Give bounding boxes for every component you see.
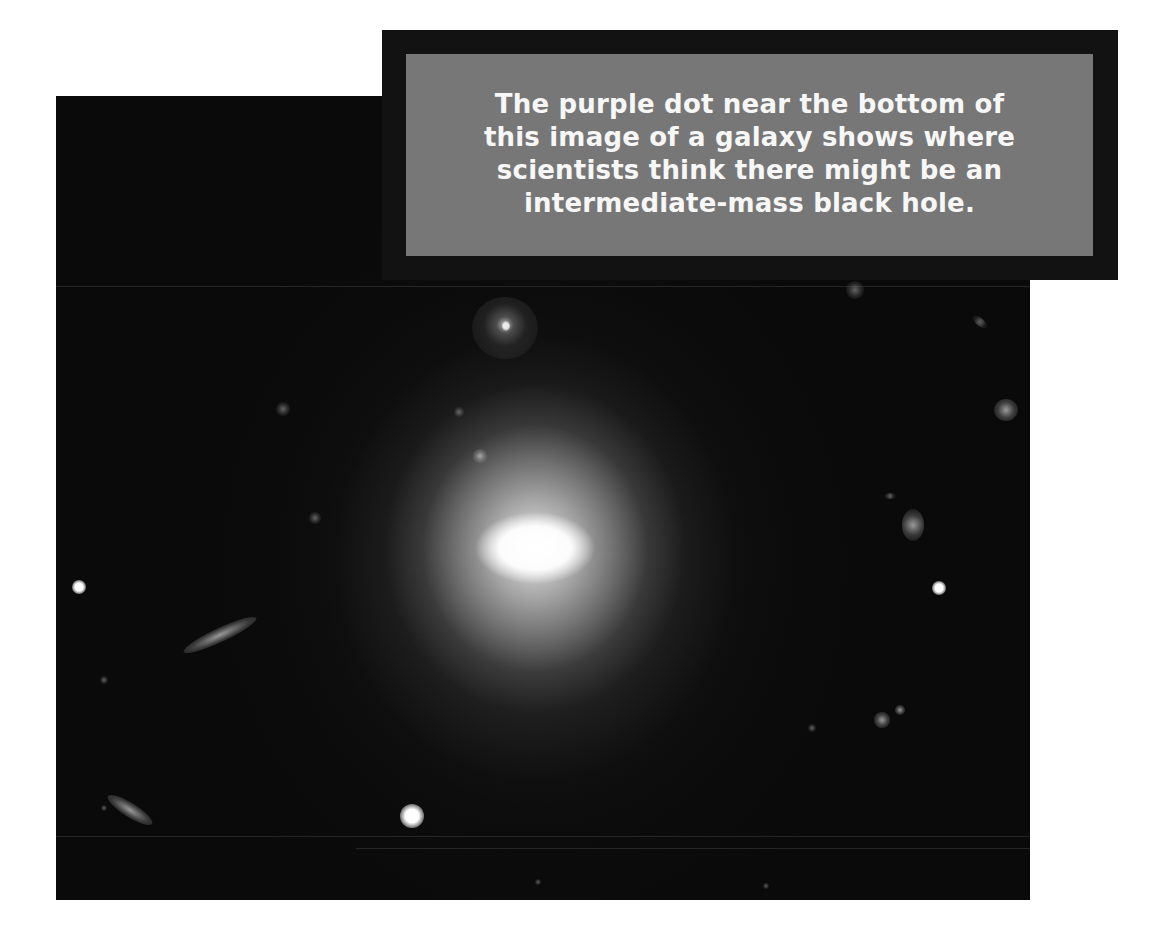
scan-artifact (356, 848, 1030, 849)
spiral-galaxy-core (502, 321, 510, 331)
caption-text: The purple dot near the bottom of this i… (430, 88, 1070, 220)
bright-star-right (932, 581, 946, 595)
caption-line: this image of a galaxy shows where (430, 121, 1070, 154)
caption-line: scientists think there might be an (430, 154, 1070, 187)
edge-on-galaxy-bottom-left (104, 790, 156, 829)
faint-object (535, 879, 541, 885)
edge-on-galaxy-left (181, 612, 259, 658)
faint-object (309, 512, 321, 524)
bright-star-left (72, 580, 86, 594)
elliptical-galaxy-right (902, 509, 924, 541)
faint-object (846, 281, 864, 299)
faint-object (454, 407, 464, 417)
caption-line: The purple dot near the bottom of (430, 88, 1070, 121)
scan-artifact (56, 836, 1030, 837)
caption-box: The purple dot near the bottom of this i… (406, 54, 1093, 256)
galaxy-pair-a (874, 712, 890, 728)
faint-object (100, 676, 108, 684)
faint-object (763, 883, 769, 889)
caption-frame: The purple dot near the bottom of this i… (382, 30, 1118, 280)
galaxy-pair-b (895, 705, 905, 715)
faint-object (276, 402, 290, 416)
faint-object (101, 805, 107, 811)
bright-star-bottom (400, 804, 424, 828)
knot-object (473, 449, 487, 463)
caption-line: intermediate-mass black hole. (430, 187, 1070, 220)
faint-object (971, 313, 990, 331)
faint-object (808, 724, 816, 732)
faint-object (884, 493, 896, 499)
fuzzy-galaxy-right (994, 399, 1018, 421)
scan-artifact (56, 286, 1030, 287)
